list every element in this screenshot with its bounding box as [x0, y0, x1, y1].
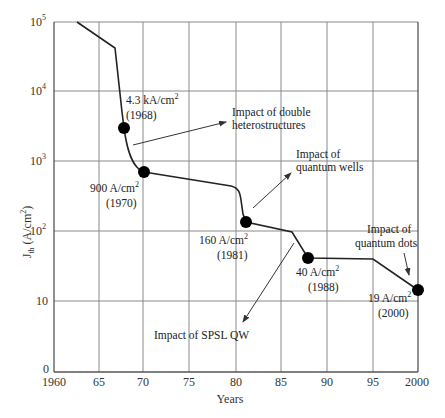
x-axis-label: Years: [217, 392, 244, 406]
x-tick-labels: 1960 65 70 75 80 85 90 95 2000: [42, 375, 429, 389]
svg-text:(1988): (1988): [308, 281, 339, 294]
y-tick-labels: 105 104 103 102 10 0: [30, 13, 49, 376]
svg-text:quantum wells: quantum wells: [296, 161, 364, 174]
svg-text:105: 105: [30, 13, 46, 29]
svg-text:90: 90: [321, 375, 333, 389]
milestone-1970-dot: [138, 166, 150, 178]
svg-text:(1981): (1981): [217, 249, 248, 262]
svg-text:(1970): (1970): [106, 197, 137, 210]
svg-text:4.3 kA/cm2: 4.3 kA/cm2: [126, 92, 179, 106]
svg-text:(1968): (1968): [126, 109, 157, 122]
double-heterostructure-arrow: [133, 122, 226, 145]
svg-text:1960: 1960: [42, 375, 66, 389]
svg-text:40 A/cm2: 40 A/cm2: [296, 264, 339, 278]
svg-text:10: 10: [36, 294, 48, 308]
milestone-1981-dot: [240, 216, 252, 228]
svg-text:95: 95: [367, 375, 379, 389]
svg-text:160 A/cm2: 160 A/cm2: [199, 232, 248, 246]
svg-text:104: 104: [30, 82, 46, 98]
svg-text:900 A/cm2: 900 A/cm2: [90, 180, 139, 194]
svg-text:heterostructures: heterostructures: [232, 119, 306, 131]
quantum-wells-arrow: [253, 173, 291, 208]
y-axis-label: Jth (A/cm2): [19, 206, 36, 259]
quantum-dots-arrow: [404, 253, 409, 275]
svg-text:0: 0: [43, 362, 49, 376]
svg-text:103: 103: [30, 152, 46, 168]
milestone-1968-dot: [118, 122, 130, 134]
svg-text:quantum dots: quantum dots: [355, 237, 418, 250]
svg-text:65: 65: [93, 375, 105, 389]
svg-text:85: 85: [275, 375, 287, 389]
svg-text:2000: 2000: [405, 375, 429, 389]
milestone-dots: [118, 122, 424, 296]
svg-text:Impact of: Impact of: [296, 148, 341, 161]
impact-annotations: Impact of double heterostructures Impact…: [133, 106, 418, 342]
svg-text:80: 80: [230, 375, 242, 389]
svg-text:19 A/cm2: 19 A/cm2: [368, 290, 411, 304]
svg-text:(2000): (2000): [378, 307, 409, 320]
svg-text:Impact of: Impact of: [367, 223, 412, 236]
milestone-2000-dot: [412, 284, 424, 296]
threshold-current-chart: 105 104 103 102 10 0 1960 65 70 75 80 85…: [0, 0, 445, 418]
milestone-1988-dot: [302, 252, 314, 264]
spsl-qw-arrow: [243, 243, 294, 322]
svg-text:Impact of double: Impact of double: [232, 106, 311, 119]
svg-text:70: 70: [137, 375, 149, 389]
svg-text:Impact of SPSL QW: Impact of SPSL QW: [154, 329, 249, 342]
svg-text:75: 75: [183, 375, 195, 389]
